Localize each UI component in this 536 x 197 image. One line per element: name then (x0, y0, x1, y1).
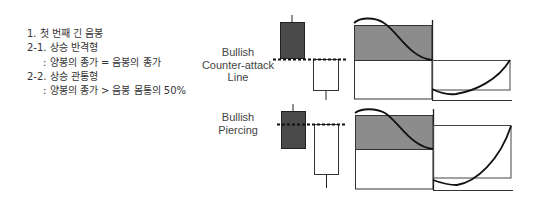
price-curve-up (433, 126, 511, 185)
pattern-diagram (0, 0, 536, 197)
bearish-candle (282, 112, 306, 149)
bullish-candle (314, 60, 339, 91)
bullish-candle (315, 125, 339, 175)
piercing-candles (277, 104, 346, 188)
piercing-illustration (355, 109, 513, 191)
price-curve-up (432, 60, 510, 94)
bearish-candle (281, 23, 305, 59)
counter-attack-illustration (354, 19, 512, 101)
counter-attack-candles (273, 15, 348, 100)
